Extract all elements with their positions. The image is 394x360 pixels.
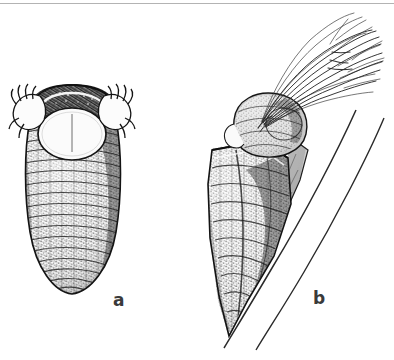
panel-b-drawing — [200, 13, 384, 350]
panel-label-b: b — [313, 290, 325, 307]
panel-b-filament-tuft — [258, 13, 384, 132]
panel-a-operculum — [38, 108, 106, 160]
panel-a-drawing — [9, 82, 135, 305]
figure-plate: a b Two pen-and-ink drawings of an insec… — [0, 0, 394, 360]
panel-label-a: a — [113, 292, 124, 309]
illustration-canvas — [0, 0, 394, 360]
panel-b-case-body — [200, 130, 300, 345]
